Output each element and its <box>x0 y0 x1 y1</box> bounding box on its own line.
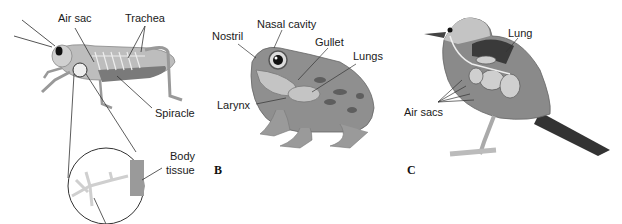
label-body-tissue-2: tissue <box>166 164 195 177</box>
label-nostril: Nostril <box>212 30 243 43</box>
panel-letter-b: B <box>214 163 222 178</box>
label-lung: Lung <box>508 27 532 40</box>
label-air-sac: Air sac <box>58 12 92 25</box>
panel-grasshopper: Air sac Trachea Spiracle Body tissue <box>0 0 210 224</box>
label-air-sacs: Air sacs <box>404 106 443 119</box>
panel-frog: Nostril Nasal cavity Gullet Lungs Larynx… <box>200 0 410 224</box>
label-spiracle: Spiracle <box>155 107 195 120</box>
panel-letter-c: C <box>407 163 416 178</box>
panel-bird: Lung Air sacs C <box>410 0 622 224</box>
label-larynx: Larynx <box>217 99 250 112</box>
label-body-tissue-1: Body <box>170 150 195 163</box>
label-lungs: Lungs <box>353 50 383 63</box>
label-gullet: Gullet <box>315 36 344 49</box>
label-trachea: Trachea <box>125 12 165 25</box>
label-nasal-cavity: Nasal cavity <box>257 18 316 31</box>
